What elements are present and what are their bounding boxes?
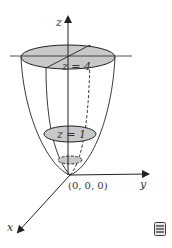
z-axis-label: z — [55, 16, 62, 29]
menu-icon[interactable] — [154, 222, 166, 236]
x-axis-label: x — [7, 221, 14, 234]
level-label-z1: z = 1 — [56, 128, 86, 141]
y-axis — [70, 174, 148, 175]
y-axis-label: y — [139, 178, 147, 191]
level-disk-small — [58, 156, 82, 164]
paraboloid-diagram: z y x (0, 0, 0) z = 4 z = 1 — [0, 0, 172, 248]
origin-label: (0, 0, 0) — [68, 180, 108, 191]
x-axis — [18, 175, 70, 232]
level-label-z4: z = 4 — [61, 60, 91, 73]
